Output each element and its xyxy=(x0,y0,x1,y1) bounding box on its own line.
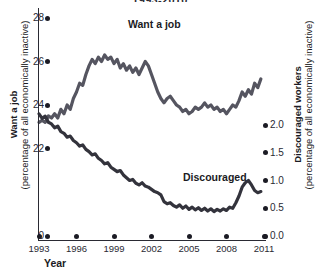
series-label-discouraged: Discouraged xyxy=(183,171,247,183)
x-axis-tick-label: 2011 xyxy=(254,243,274,254)
x-axis-line xyxy=(38,240,266,241)
x-axis-tick-dot xyxy=(112,234,117,239)
y-axis-left-title: Want a job (percentage of all economical… xyxy=(9,40,30,190)
x-axis-tick-label: 1993 xyxy=(28,243,49,254)
y-axis-left-tick-dot xyxy=(45,234,50,239)
x-axis-tick-label: 2008 xyxy=(216,243,237,254)
x-axis-tick-dot xyxy=(149,234,154,239)
y-axis-left-tick-dot xyxy=(45,16,50,21)
series-line-discouraged xyxy=(39,114,261,212)
y-axis-left-tick-dot xyxy=(45,146,50,151)
y-axis-right-tick-dot xyxy=(263,178,268,183)
y-axis-left-title-main: Want a job xyxy=(9,40,20,190)
x-axis-tick-dot xyxy=(262,234,267,239)
y-axis-right-tick-dot xyxy=(263,123,268,128)
x-axis-tick-dot xyxy=(224,234,229,239)
y-axis-right-tick-dot xyxy=(263,206,268,211)
y-axis-right-title-sub: (percentage of all economically inactive… xyxy=(303,40,314,190)
x-axis-tick-dot xyxy=(37,234,42,239)
y-axis-left-tick-dot xyxy=(45,59,50,64)
y-axis-right-tick-label: 0.0 xyxy=(270,230,298,241)
y-axis-right-title: Discouraged workers (percentage of all e… xyxy=(293,40,314,190)
x-axis-tick-label: 2005 xyxy=(178,243,199,254)
x-axis-tick-label: 1999 xyxy=(103,243,124,254)
y-axis-left-title-sub: (percentage of all economically inactive… xyxy=(19,40,30,190)
x-axis-tick-label: 1996 xyxy=(66,243,87,254)
series-label-want-a-job: Want a job xyxy=(128,18,181,30)
x-axis-tick-dot xyxy=(187,234,192,239)
x-axis-tick-label: 2002 xyxy=(141,243,162,254)
series-line-want-a-job xyxy=(39,55,261,122)
y-axis-right-tick-label: 0.5 xyxy=(270,202,298,213)
x-axis-tick-dot xyxy=(74,234,79,239)
y-axis-right-title-main: Discouraged workers xyxy=(293,40,304,190)
x-axis-title: Year xyxy=(44,258,66,269)
y-axis-right-tick-dot xyxy=(263,150,268,155)
y-axis-line xyxy=(38,8,39,240)
chart-container: 1993-2010 022242628 0.00.51.01.52.0 1993… xyxy=(0,0,320,277)
y-axis-left-tick-dot xyxy=(45,103,50,108)
